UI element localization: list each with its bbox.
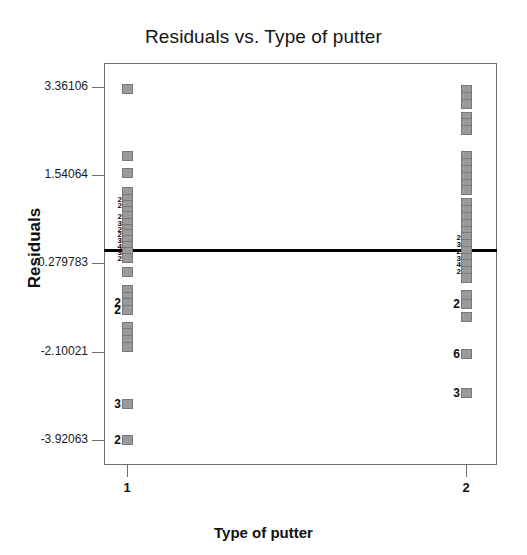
marker-count-label: 2 [436,297,460,311]
data-marker [461,185,472,195]
y-tick-label: -2.10021 [41,344,88,358]
data-marker [461,349,472,359]
y-tick-label: -3.92063 [41,432,88,446]
y-axis-title: Residuals [25,193,45,303]
data-marker [122,399,133,409]
marker-count-label: 2 [97,303,121,317]
y-tick-mark [92,352,104,353]
x-axis-title: Type of putter [0,524,527,541]
y-tick-label: 1.54064 [45,167,88,181]
data-marker [122,151,133,161]
data-marker [461,388,472,398]
data-marker [122,84,133,94]
x-tick-mark [466,465,467,477]
data-marker [461,290,472,300]
zero-reference-line [104,249,497,252]
y-tick-label: 3.36106 [45,79,88,93]
data-marker [461,125,472,135]
marker-count-label: 2 [108,254,122,263]
marker-count-label: 3 [97,397,121,411]
x-tick-label: 2 [446,480,486,495]
marker-count-label: 2 [447,267,461,276]
data-marker [122,305,133,315]
data-marker [122,168,133,178]
y-tick-mark [92,263,104,264]
data-marker [461,99,472,109]
data-marker [122,253,133,263]
data-marker [461,312,472,322]
marker-count-label: 2 [108,201,122,210]
y-tick-label: -0.279783 [34,255,88,269]
data-marker [122,435,133,445]
y-tick-mark [92,87,104,88]
chart-title: Residuals vs. Type of putter [0,26,527,48]
marker-count-label: 6 [436,347,460,361]
x-tick-mark [127,465,128,477]
data-marker [122,342,133,352]
chart-canvas: Residuals vs. Type of putter Residuals T… [0,0,527,555]
x-tick-label: 1 [107,480,147,495]
plot-frame [104,63,497,465]
data-marker [461,273,472,283]
marker-count-label: 2 [97,433,121,447]
marker-count-label: 3 [436,386,460,400]
y-tick-mark [92,175,104,176]
data-marker [461,299,472,309]
data-marker [122,267,133,277]
